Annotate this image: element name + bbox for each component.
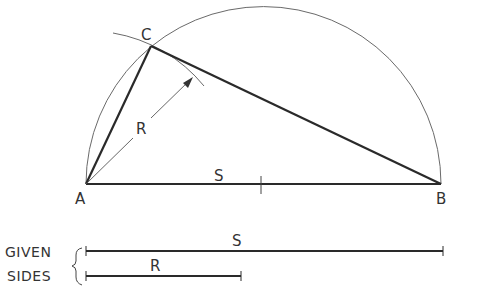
given-side-s-label: S (232, 232, 242, 250)
given-caption-line1: GIVEN (5, 244, 51, 260)
label-point-b: B (436, 190, 446, 208)
side-ac (86, 46, 151, 184)
side-cb (151, 46, 441, 184)
radius-dimension-line-upper (151, 80, 190, 118)
label-base-s: S (214, 167, 224, 185)
semicircle-arc (86, 7, 441, 184)
given-caption-line2: SIDES (7, 268, 51, 284)
label-point-c: C (141, 26, 151, 44)
label-radius: R (136, 120, 146, 138)
curly-brace-icon (72, 248, 82, 285)
given-side-r-label: R (150, 257, 160, 275)
radius-dimension-line-lower (86, 138, 133, 184)
arrowhead-icon (183, 77, 193, 88)
geometry-diagram: C R S A B GIVEN SIDES S R (0, 0, 480, 300)
label-point-a: A (75, 190, 86, 208)
